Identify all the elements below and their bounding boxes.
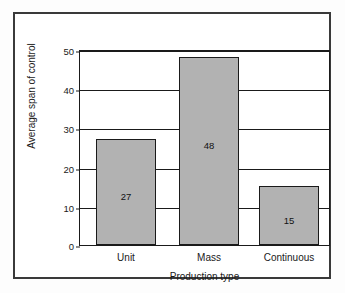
x-tick-label-unit: Unit [96, 253, 156, 263]
bar-value-mass: 48 [180, 141, 238, 151]
tick-mark-0 [76, 247, 80, 248]
tick-mark-10 [76, 208, 80, 209]
y-tick-label-30: 30 [63, 126, 74, 136]
tick-mark-50 [76, 52, 80, 53]
bar-value-continuous: 15 [260, 216, 318, 226]
gridline-50: 50 [80, 51, 329, 52]
x-axis-title: Production type [79, 272, 330, 282]
plot-area: 50 40 30 20 10 [79, 50, 330, 246]
y-tick-label-20: 20 [63, 165, 74, 175]
tick-mark-20 [76, 169, 80, 170]
bar-continuous[interactable]: 15 [259, 186, 319, 245]
y-tick-label-40: 40 [63, 86, 74, 96]
y-tick-label-0: 0 [69, 242, 74, 252]
x-tick-label-mass: Mass [179, 253, 239, 263]
figure: Average span of control 50 40 30 20 [0, 0, 345, 293]
bar-unit[interactable]: 27 [96, 139, 156, 245]
tick-mark-30 [76, 130, 80, 131]
y-tick-label-10: 10 [63, 204, 74, 214]
bar-mass[interactable]: 48 [179, 57, 239, 245]
y-axis-title: Average span of control [27, 16, 37, 176]
bar-value-unit: 27 [97, 192, 155, 202]
y-tick-label-50: 50 [63, 47, 74, 57]
x-tick-label-continuous: Continuous [259, 253, 319, 263]
figure-border: Average span of control 50 40 30 20 [13, 12, 331, 279]
tick-mark-40 [76, 91, 80, 92]
